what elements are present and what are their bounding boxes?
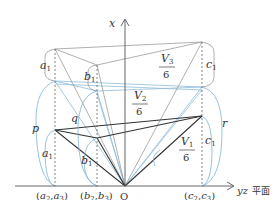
label-a1-low: a1 [42, 147, 53, 161]
base-label-b: (b2,b3) [80, 190, 113, 200]
diagram-canvas: x O yz 平面 (a2,a3) (b2,b3) (c2,c3) a1 b1 … [0, 0, 275, 200]
label-q: q [71, 112, 78, 125]
label-b1-top: b1 [84, 70, 96, 84]
label-p: p [32, 122, 39, 135]
label-c1-low: c1 [205, 134, 216, 148]
label-a1-top: a1 [40, 59, 51, 73]
label-r: r [222, 117, 228, 130]
fraction-V2: V2 6 [132, 89, 148, 117]
axes [15, 19, 234, 190]
svg-text:6: 6 [163, 69, 169, 80]
svg-text:V2: V2 [134, 89, 146, 103]
yz-label: yz [236, 185, 249, 196]
blue-lines [55, 81, 202, 186]
dark-lines [55, 116, 202, 186]
base-label-a: (a2,a3) [36, 190, 68, 200]
label-b1-low: b1 [81, 154, 93, 168]
svg-text:V1: V1 [181, 135, 193, 149]
plane-label: 平面 [252, 186, 270, 196]
fraction-V1: V1 6 [179, 135, 195, 163]
label-c1-top: c1 [206, 58, 217, 72]
origin-label: O [120, 191, 128, 200]
x-axis-label: x [109, 17, 116, 30]
svg-text:6: 6 [183, 152, 189, 163]
fraction-V3: V3 6 [159, 52, 175, 80]
svg-text:V3: V3 [161, 52, 173, 66]
base-label-c: (c2,c3) [184, 190, 215, 200]
svg-text:6: 6 [136, 106, 142, 117]
